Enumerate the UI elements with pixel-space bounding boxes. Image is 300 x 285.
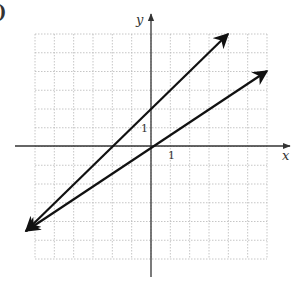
y-axis-label: y bbox=[135, 12, 144, 27]
line-slope-one bbox=[26, 34, 228, 231]
y-tick-label: 1 bbox=[141, 122, 148, 135]
corner-label: ) bbox=[0, 1, 7, 22]
x-tick-label: 1 bbox=[168, 149, 175, 162]
x-axis-label: x bbox=[282, 148, 290, 163]
line-slope-two-thirds bbox=[26, 71, 267, 231]
coordinate-graph: y x 1 1 ) bbox=[0, 0, 300, 285]
